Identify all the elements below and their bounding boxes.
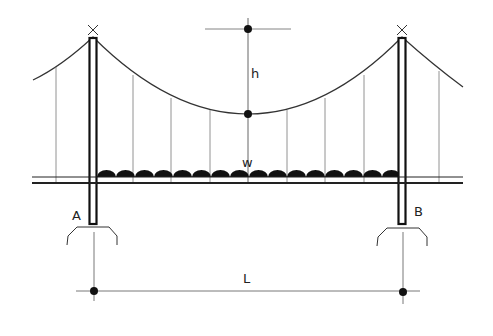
- support-b-label: B: [414, 204, 423, 219]
- support-a-label: A: [72, 208, 81, 223]
- span-end-point: [399, 288, 407, 296]
- right-support: [377, 228, 427, 246]
- span-start-point: [90, 287, 98, 295]
- distributed-load: [97, 170, 401, 177]
- left-support: [67, 227, 117, 245]
- sag-label: h: [251, 66, 259, 81]
- span-dimension: [76, 232, 420, 304]
- suspension-bridge-diagram: h w A B L: [0, 0, 493, 336]
- load-label: w: [242, 155, 253, 170]
- right-tower: [397, 25, 407, 224]
- left-tower: [88, 25, 98, 224]
- span-label: L: [243, 271, 251, 286]
